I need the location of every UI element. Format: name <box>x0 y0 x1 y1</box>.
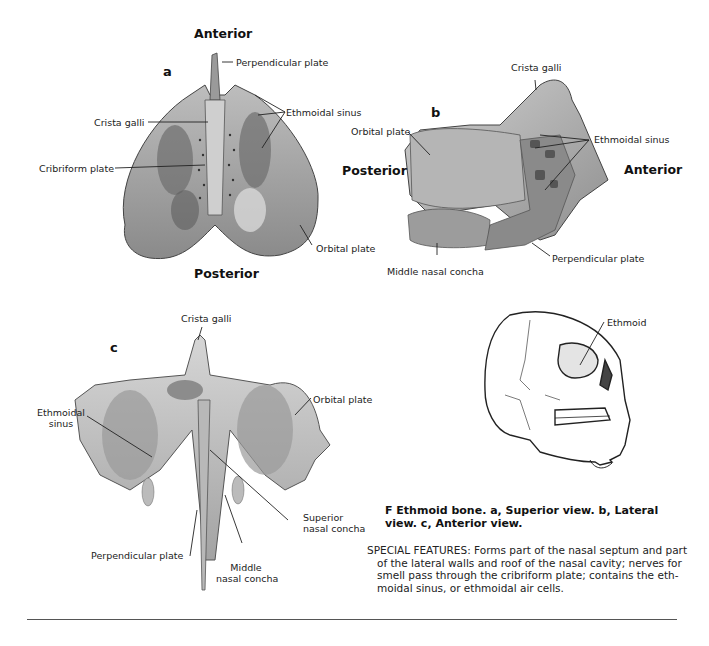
panel-c-perpendicular-plate-label: Perpendicular plate <box>91 550 183 561</box>
panel-a-cribriform-plate-label: Cribriform plate <box>39 163 114 174</box>
panel-b-posterior-label: Posterior <box>342 165 407 176</box>
panel-a-letter: a <box>163 64 172 79</box>
figure-caption: F Ethmoid bone. a, Superior view. b, Lat… <box>385 504 685 530</box>
panel-c-middle-nasal-concha-label: Middle nasal concha <box>216 562 276 584</box>
panel-a-illustration <box>123 53 318 259</box>
panel-a-orbital-plate-label: Orbital plate <box>316 243 375 254</box>
panel-c-crista-galli-label: Crista galli <box>181 313 231 324</box>
panel-b-anterior-label: Anterior <box>624 164 682 175</box>
panel-b-ethmoidal-sinus-label: Ethmoidal sinus <box>594 134 670 145</box>
panel-c-orbital-plate-label: Orbital plate <box>313 394 372 405</box>
panel-c-ethmoidal-sinus-label: Ethmoidal sinus <box>37 407 85 429</box>
panel-c-letter: c <box>110 340 118 355</box>
horizontal-rule <box>27 619 677 620</box>
panel-a-posterior-label: Posterior <box>194 268 259 279</box>
skull-ethmoid-label: Ethmoid <box>607 317 646 328</box>
panel-b-crista-galli-label: Crista galli <box>511 62 561 73</box>
panel-b-letter: b <box>431 105 440 120</box>
panel-b-orbital-plate-label: Orbital plate <box>351 126 410 137</box>
panel-a-anterior-label: Anterior <box>194 28 252 39</box>
panel-a-ethmoidal-sinus-label: Ethmoidal sinus <box>286 107 362 118</box>
skull-illustration <box>485 312 630 468</box>
special-features-text: SPECIAL FEATURES: Forms part of the nasa… <box>367 544 687 594</box>
panel-a-crista-galli-label: Crista galli <box>94 117 144 128</box>
panel-c-superior-nasal-concha-label: Superior nasal concha <box>303 512 365 534</box>
panel-a-perpendicular-plate-label: Perpendicular plate <box>236 57 328 68</box>
panel-b-middle-nasal-concha-label: Middle nasal concha <box>387 266 484 277</box>
panel-b-perpendicular-plate-label: Perpendicular plate <box>552 253 644 264</box>
